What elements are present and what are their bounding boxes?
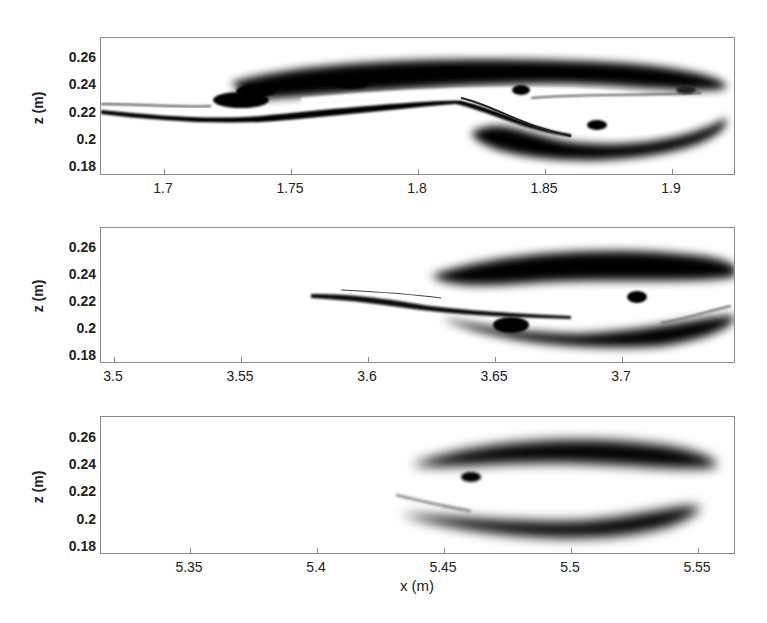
x-tick-label: 5.55	[683, 559, 710, 575]
y-tick-label: 0.26	[69, 49, 96, 65]
panel-2: z (m) 0.26 0.24 0.22 0.2 0.18 3.5 3.55 3…	[0, 190, 767, 390]
panel-3: z (m) 0.26 0.24 0.22 0.2 0.18 5.35 5.4 5…	[0, 379, 767, 623]
x-tick	[672, 169, 673, 174]
x-tick-label: 5.35	[175, 559, 202, 575]
y-tick-label: 0.24	[69, 456, 96, 472]
y-tick-label: 0.22	[69, 483, 96, 499]
x-tick	[241, 357, 242, 362]
panel-1: z (m) 0.26 0.24 0.22 0.2 0.18	[0, 0, 767, 200]
y-tick-label: 0.18	[69, 538, 96, 554]
y-axis-label: z (m)	[30, 92, 46, 125]
x-axis-label: x (m)	[400, 577, 434, 594]
x-tick-label: 5.4	[306, 559, 325, 575]
x-tick	[164, 169, 165, 174]
y-tick-label: 0.18	[69, 347, 96, 363]
x-tick	[571, 548, 572, 553]
x-tick	[291, 169, 292, 174]
x-tick-label: 5.45	[429, 559, 456, 575]
x-tick	[622, 357, 623, 362]
x-tick	[545, 169, 546, 174]
y-axis-label: z (m)	[30, 471, 46, 504]
x-tick	[317, 548, 318, 553]
x-tick-label: 5.5	[560, 559, 579, 575]
y-tick-label: 0.2	[77, 131, 96, 147]
y-tick-label: 0.22	[69, 104, 96, 120]
plot-area	[100, 227, 735, 363]
plot-area	[100, 416, 735, 554]
y-tick-label: 0.24	[69, 266, 96, 282]
x-tick	[368, 357, 369, 362]
y-tick-label: 0.26	[69, 239, 96, 255]
x-tick	[444, 548, 445, 553]
y-tick-label: 0.2	[77, 511, 96, 527]
y-tick-label: 0.26	[69, 429, 96, 445]
x-tick	[418, 169, 419, 174]
x-tick	[190, 548, 191, 553]
x-tick	[114, 357, 115, 362]
y-axis-label: z (m)	[30, 280, 46, 313]
y-tick-label: 0.22	[69, 293, 96, 309]
y-tick-label: 0.18	[69, 158, 96, 174]
y-tick-label: 0.24	[69, 76, 96, 92]
x-tick	[698, 548, 699, 553]
vorticity-field	[101, 38, 735, 175]
y-tick-label: 0.2	[77, 320, 96, 336]
x-tick	[495, 357, 496, 362]
vorticity-field	[101, 228, 735, 363]
plot-area	[100, 37, 735, 175]
vorticity-field	[101, 417, 735, 554]
